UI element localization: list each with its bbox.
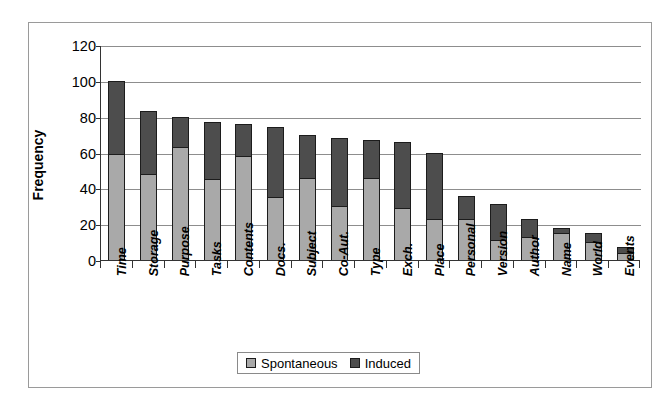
bar-slot-co-aut[interactable] (323, 45, 355, 260)
chart-legend: SpontaneousInduced (237, 352, 420, 374)
x-tick-mark (481, 261, 482, 268)
bar-stack[interactable] (204, 122, 221, 260)
y-axis-title-text: Frequency (30, 130, 46, 201)
x-tick-label-text: World (592, 241, 606, 276)
x-tick-mark (291, 261, 292, 268)
bar-segment-induced[interactable] (140, 111, 157, 174)
x-tick-mark (259, 261, 260, 268)
x-tick-mark (545, 261, 546, 268)
bar-stack[interactable] (108, 81, 125, 260)
legend-label: Induced (365, 356, 411, 371)
bar-segment-induced[interactable] (172, 117, 189, 147)
x-label-slot: Co-Aut. (322, 268, 354, 338)
x-label-slot: Author (513, 268, 545, 338)
bar-segment-induced[interactable] (426, 153, 443, 219)
bar-stack[interactable] (267, 127, 284, 260)
x-tick-label-text: Author (528, 235, 542, 276)
x-label-slot: Exch. (386, 268, 418, 338)
x-tick-label-text: Name (560, 242, 574, 276)
x-tick-label-text: Docs. (274, 242, 288, 276)
x-axis-tick-labels: TimeStoragePurposeTasksContentsDocs.Subj… (100, 268, 640, 338)
x-tick-mark (100, 261, 101, 268)
x-tick-label-text: Version (496, 231, 510, 276)
x-tick-label-text: Exch. (401, 243, 415, 276)
bar-slot-time[interactable] (101, 45, 133, 260)
x-label-slot: Time (100, 268, 132, 338)
legend-swatch-icon (350, 358, 360, 368)
legend-label: Spontaneous (261, 356, 338, 371)
bar-segment-induced[interactable] (331, 138, 348, 206)
bar-segment-induced[interactable] (458, 196, 475, 219)
bar-slot-version[interactable] (482, 45, 514, 260)
x-tick-mark (608, 261, 609, 268)
x-label-slot: Personal (449, 268, 481, 338)
bar-segment-induced[interactable] (108, 81, 125, 154)
x-tick-label-text: Purpose (179, 226, 193, 276)
bar-slot-docs[interactable] (260, 45, 292, 260)
bar-segment-spontaneous[interactable] (108, 154, 125, 260)
x-tick-mark (386, 261, 387, 268)
bar-slot-type[interactable] (355, 45, 387, 260)
x-label-slot: Purpose (164, 268, 196, 338)
x-tick-label-text: Type (369, 248, 383, 277)
y-tick-label-120: 120 (56, 38, 96, 54)
y-tick-label-0: 0 (56, 253, 96, 269)
legend-item[interactable]: Spontaneous (246, 356, 338, 371)
x-tick-mark (195, 261, 196, 268)
x-label-slot: Version (481, 268, 513, 338)
x-label-slot: Docs. (259, 268, 291, 338)
legend-item[interactable]: Induced (350, 356, 411, 371)
bar-stack[interactable] (363, 140, 380, 260)
bar-segment-induced[interactable] (394, 142, 411, 208)
x-tick-mark (576, 261, 577, 268)
x-tick-label-text: Tasks (211, 241, 225, 276)
x-tick-label-text: Storage (147, 230, 161, 277)
x-label-slot: Contents (227, 268, 259, 338)
y-tick-label-40: 40 (56, 181, 96, 197)
x-tick-mark (513, 261, 514, 268)
bar-segment-induced[interactable] (521, 219, 538, 237)
x-label-slot: Subject (291, 268, 323, 338)
x-tick-mark (132, 261, 133, 268)
x-tick-label-text: Contents (242, 222, 256, 276)
bar-slot-tasks[interactable] (196, 45, 228, 260)
x-tick-mark (227, 261, 228, 268)
bar-slot-name[interactable] (546, 45, 578, 260)
bar-slot-storage[interactable] (133, 45, 165, 260)
bar-segment-induced[interactable] (299, 135, 316, 178)
bar-slot-subject[interactable] (292, 45, 324, 260)
x-label-slot: Events (608, 268, 640, 338)
y-tick-label-100: 100 (56, 74, 96, 90)
x-tick-label-text: Co-Aut. (338, 231, 352, 276)
x-label-slot: Tasks (195, 268, 227, 338)
x-tick-label-text: Place (433, 244, 447, 277)
bar-slot-world[interactable] (577, 45, 609, 260)
chart-figure: Frequency 020406080100120 TimeStoragePur… (0, 0, 671, 417)
y-tick-label-60: 60 (56, 146, 96, 162)
x-tick-label-text: Events (624, 235, 638, 276)
x-tick-mark (639, 261, 640, 268)
y-tick-label-20: 20 (56, 217, 96, 233)
bar-segment-induced[interactable] (204, 122, 221, 179)
x-label-slot: World (576, 268, 608, 338)
x-tick-mark (449, 261, 450, 268)
bar-slot-exch[interactable] (387, 45, 419, 260)
x-label-slot: Type (354, 268, 386, 338)
bar-segment-induced[interactable] (363, 140, 380, 178)
x-label-slot: Name (545, 268, 577, 338)
x-label-slot: Place (418, 268, 450, 338)
bar-slot-events[interactable] (609, 45, 641, 260)
y-tick-label-80: 80 (56, 110, 96, 126)
bar-segment-induced[interactable] (235, 124, 252, 156)
x-tick-label-text: Time (115, 247, 129, 276)
x-tick-label-text: Personal (465, 223, 479, 276)
x-tick-label-text: Subject (306, 231, 320, 276)
bar-slot-place[interactable] (419, 45, 451, 260)
y-axis-title: Frequency (26, 80, 50, 250)
bar-segment-induced[interactable] (267, 127, 284, 197)
y-axis-tick-labels: 020406080100120 (52, 46, 96, 261)
legend-swatch-icon (246, 358, 256, 368)
x-tick-mark (418, 261, 419, 268)
x-tick-mark (164, 261, 165, 268)
bar-slot-author[interactable] (514, 45, 546, 260)
